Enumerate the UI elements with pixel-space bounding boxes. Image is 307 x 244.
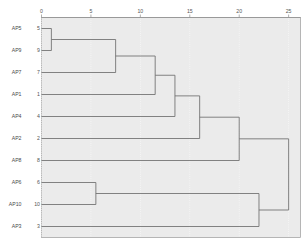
leaf-label-ap9: AP9	[12, 47, 22, 53]
leaf-label-ap1: AP1	[12, 91, 22, 97]
leaf-label-ap8: AP8	[12, 157, 22, 163]
x-axis-tick-labels: 0510152025	[40, 8, 292, 14]
leaf-index-ap8: 8	[37, 157, 40, 163]
leaf-label-ap6: AP6	[12, 179, 22, 185]
leaf-label-ap10: AP10	[9, 201, 22, 207]
leaf-index-ap6: 6	[37, 179, 40, 185]
x-tick-label: 5	[89, 8, 92, 14]
x-tick-label: 10	[137, 8, 143, 14]
leaf-labels: AP5AP9AP7AP1AP4AP2AP8AP6AP10AP3	[9, 25, 22, 229]
x-tick-label: 0	[40, 8, 43, 14]
x-tick-label: 25	[286, 8, 292, 14]
leaf-index-ap7: 7	[37, 69, 40, 75]
dendrogram-canvas: 0510152025 AP5AP9AP7AP1AP4AP2AP8AP6AP10A…	[0, 0, 307, 244]
leaf-index-ap5: 5	[37, 25, 40, 31]
leaf-label-ap7: AP7	[12, 69, 22, 75]
x-axis	[42, 15, 301, 18]
leaf-label-ap4: AP4	[12, 113, 22, 119]
leaf-index-ap1: 1	[37, 91, 40, 97]
leaf-label-ap2: AP2	[12, 135, 22, 141]
x-tick-label: 15	[187, 8, 193, 14]
leaf-index-ap2: 2	[37, 135, 40, 141]
leaf-label-ap3: AP3	[12, 223, 22, 229]
leaf-label-ap5: AP5	[12, 25, 22, 31]
leaf-indices: 59714286103	[34, 25, 40, 229]
dendrogram-figure: 0510152025 AP5AP9AP7AP1AP4AP2AP8AP6AP10A…	[0, 0, 307, 244]
leaf-index-ap10: 10	[34, 201, 40, 207]
leaf-index-ap9: 9	[37, 47, 40, 53]
leaf-index-ap3: 3	[37, 223, 40, 229]
leaf-index-ap4: 4	[37, 113, 40, 119]
x-tick-label: 20	[236, 8, 242, 14]
